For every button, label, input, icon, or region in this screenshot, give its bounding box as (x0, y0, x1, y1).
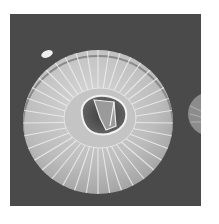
micrograph-panel (10, 14, 201, 206)
micrograph-image (10, 14, 201, 206)
